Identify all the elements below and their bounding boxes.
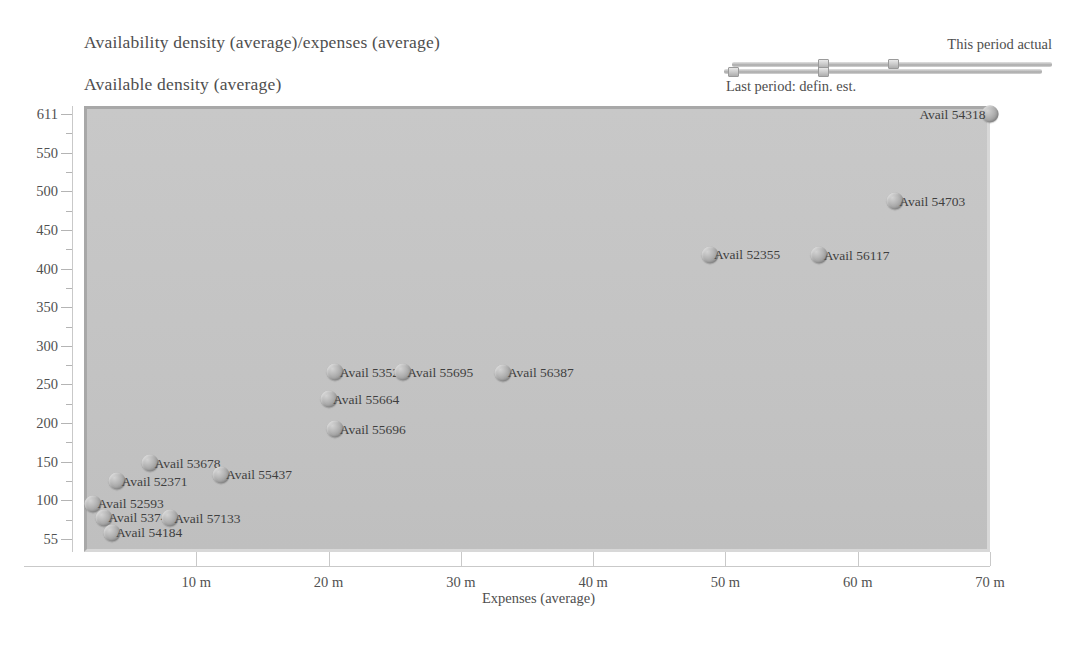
data-point[interactable]: Avail 53747 [95, 509, 112, 526]
x-axis-line [24, 566, 990, 567]
chart-subtitle: Available density (average) [84, 74, 281, 95]
data-point-label: Avail 53678 [154, 455, 220, 471]
y-axis-tick-label: 100 [36, 492, 58, 509]
x-axis-tick-mark [990, 552, 991, 566]
x-axis-tick-mark [593, 552, 594, 566]
data-point[interactable]: Avail 54184 [103, 524, 120, 541]
y-axis-tick-mark [61, 462, 72, 463]
y-axis-minor-tick [66, 133, 72, 134]
data-point-label: Avail 52355 [714, 247, 780, 263]
chart-title: Availability density (average)/expenses … [84, 32, 440, 53]
x-axis-tick-label: 70 m [975, 574, 1004, 591]
x-axis-tick-label: 50 m [711, 574, 740, 591]
y-axis-tick-label: 200 [36, 415, 58, 432]
y-axis-minor-tick [66, 481, 72, 482]
y-axis-tick-label: 300 [36, 337, 58, 354]
y-axis-tick-label: 500 [36, 183, 58, 200]
chart-canvas: Availability density (average)/expenses … [0, 0, 1077, 651]
data-point-label: Avail 55664 [333, 391, 399, 407]
chart-legend: This period actual Last period: defin. e… [722, 36, 1052, 96]
data-point[interactable]: Avail 55696 [327, 421, 344, 438]
y-axis-tick-label: 55 [44, 531, 59, 548]
legend-marker-icon [728, 67, 739, 77]
legend-label-this-period: This period actual [947, 36, 1052, 53]
y-axis-minor-tick [66, 365, 72, 366]
y-axis-tick-label: 550 [36, 144, 58, 161]
y-axis-tick-label: 350 [36, 299, 58, 316]
y-axis-minor-tick [66, 211, 72, 212]
x-axis-tick-label: 40 m [578, 574, 607, 591]
data-point-label: Avail 55696 [340, 421, 406, 437]
y-axis-tick-mark [61, 114, 72, 115]
data-point-label: Avail 54184 [116, 525, 182, 541]
data-point-label: Avail 56387 [508, 365, 574, 381]
x-axis-tick-label: 20 m [314, 574, 343, 591]
data-point-label: Avail 55695 [407, 364, 473, 380]
y-axis-tick-label: 150 [36, 453, 58, 470]
y-axis-tick-mark [61, 191, 72, 192]
data-point[interactable]: Avail 56117 [811, 247, 828, 264]
y-axis: 55100150200250300350400450500550611 [0, 100, 84, 570]
x-axis-tick-mark [858, 552, 859, 566]
data-point[interactable]: Avail 54703 [886, 193, 903, 210]
data-point[interactable]: Avail 55437 [213, 466, 230, 483]
y-axis-tick-mark [61, 307, 72, 308]
y-axis-tick-mark [61, 153, 72, 154]
legend-marker-icon [888, 59, 899, 69]
data-point-label: Avail 54318 [919, 106, 985, 122]
x-axis-tick-label: 60 m [843, 574, 872, 591]
data-point[interactable]: Avail 55664 [320, 391, 337, 408]
y-axis-tick-mark [61, 539, 72, 540]
data-point[interactable]: Avail 52371 [108, 473, 125, 490]
data-point[interactable]: Avail 56387 [495, 364, 512, 381]
y-axis-minor-tick [66, 288, 72, 289]
y-axis-tick-mark [61, 423, 72, 424]
y-axis-minor-tick [66, 442, 72, 443]
data-point-label: Avail 54703 [899, 193, 965, 209]
x-axis-tick-mark [196, 552, 197, 566]
y-axis-minor-tick [66, 520, 72, 521]
y-axis-minor-tick [66, 249, 72, 250]
y-axis-tick-label: 400 [36, 260, 58, 277]
y-axis-minor-tick [66, 172, 72, 173]
data-point-label: Avail 56117 [824, 247, 890, 263]
x-axis-tick-label: 30 m [446, 574, 475, 591]
y-axis-tick-mark [61, 500, 72, 501]
y-axis-tick-mark [61, 384, 72, 385]
plot-area [84, 106, 990, 552]
y-axis-tick-mark [61, 346, 72, 347]
y-axis-tick-label: 250 [36, 376, 58, 393]
x-axis-tick-label: 10 m [182, 574, 211, 591]
x-axis-tick-mark [725, 552, 726, 566]
legend-marker-icon [818, 67, 829, 77]
data-point-label: Avail 52371 [121, 473, 187, 489]
data-point[interactable]: Avail 53678 [141, 455, 158, 472]
y-axis-tick-mark [61, 230, 72, 231]
data-point[interactable]: Avail 54318 [982, 106, 999, 123]
data-point-label: Avail 57133 [174, 510, 240, 526]
data-point[interactable]: Avail 55695 [394, 364, 411, 381]
y-axis-tick-mark [61, 269, 72, 270]
y-axis-minor-tick [66, 327, 72, 328]
y-axis-minor-tick [66, 404, 72, 405]
y-axis-tick-label: 611 [37, 106, 58, 123]
x-axis-tick-mark [329, 552, 330, 566]
data-point[interactable]: Avail 52355 [701, 246, 718, 263]
legend-line-last-period [724, 69, 1042, 74]
data-point-label: Avail 55437 [226, 467, 292, 483]
legend-label-last-period: Last period: defin. est. [726, 78, 856, 95]
x-axis-tick-mark [461, 552, 462, 566]
x-axis-title: Expenses (average) [0, 590, 1077, 607]
y-axis-line [72, 106, 73, 552]
data-point[interactable]: Avail 53525 [327, 364, 344, 381]
y-axis-tick-label: 450 [36, 221, 58, 238]
